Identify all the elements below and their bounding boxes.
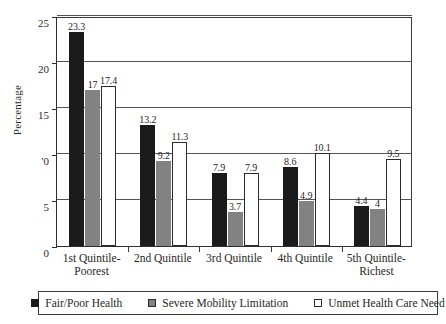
x-tick-mark xyxy=(128,246,129,252)
y-tick-mark xyxy=(52,201,57,202)
legend-label: Unmet Health Care Need xyxy=(328,297,445,309)
bar xyxy=(370,209,385,246)
y-axis-title: Percentage xyxy=(11,65,23,155)
x-tick-mark xyxy=(271,246,272,252)
gridline xyxy=(57,15,412,16)
bar xyxy=(315,153,330,246)
x-tick-mark xyxy=(342,246,343,252)
bar xyxy=(69,32,84,246)
x-axis-category-label: 2nd Quintile xyxy=(134,252,192,265)
bar-value-label: 9.5 xyxy=(387,148,399,159)
legend-item: Unmet Health Care Need xyxy=(314,297,445,309)
bar-value-label: 7.9 xyxy=(213,162,225,173)
bar xyxy=(101,86,116,246)
x-axis-category-label: 5th Quintile- Richest xyxy=(347,252,406,278)
bar-value-label: 4 xyxy=(375,198,380,209)
legend-swatch-icon xyxy=(314,299,322,307)
bar xyxy=(228,212,243,246)
x-tick-mark xyxy=(199,246,200,252)
y-tick-mark xyxy=(52,17,57,18)
legend-swatch-icon xyxy=(148,299,156,307)
legend-swatch-icon xyxy=(31,299,39,307)
bar-value-label: 4.4 xyxy=(355,195,367,206)
bar-value-label: 10.1 xyxy=(314,142,331,153)
x-axis-category-label: 1st Quintile- Poorest xyxy=(63,252,121,278)
bar xyxy=(85,90,100,246)
legend-item: Severe Mobility Limitation xyxy=(148,297,288,309)
bar xyxy=(386,159,401,246)
bar-value-label: 8.6 xyxy=(284,156,296,167)
bar xyxy=(172,142,187,246)
bar xyxy=(212,173,227,246)
bar-value-label: 17 xyxy=(88,79,98,90)
bar-value-label: 11.3 xyxy=(171,131,188,142)
bar xyxy=(156,161,171,246)
y-tick-mark xyxy=(52,247,57,248)
bar-value-label: 9.2 xyxy=(158,150,170,161)
legend-item: Fair/Poor Health xyxy=(31,297,122,309)
bar-value-label: 13.2 xyxy=(139,114,156,125)
bar-value-label: 4.9 xyxy=(300,190,312,201)
x-axis-category-label: 3rd Quintile xyxy=(206,252,262,265)
y-tick-mark xyxy=(52,63,57,64)
bar xyxy=(299,201,314,246)
bar xyxy=(140,125,155,246)
bar xyxy=(244,173,259,246)
y-tick-mark xyxy=(52,155,57,156)
gridline xyxy=(57,61,412,62)
legend-label: Severe Mobility Limitation xyxy=(162,297,288,309)
chart-legend: Fair/Poor HealthSevere Mobility Limitati… xyxy=(38,291,438,315)
legend-label: Fair/Poor Health xyxy=(45,297,122,309)
chart-figure: Percentage 05'0152025 23.31717.413.29.21… xyxy=(0,0,446,324)
y-tick-mark xyxy=(52,109,57,110)
plot-area: 05'0152025 23.31717.413.29.211.37.93.77.… xyxy=(56,17,412,247)
bar-value-label: 3.7 xyxy=(229,201,241,212)
bar xyxy=(283,167,298,246)
x-axis-category-label: 4th Quintile xyxy=(278,252,333,265)
bar-value-label: 7.9 xyxy=(245,162,257,173)
bar-value-label: 17.4 xyxy=(100,75,117,86)
bar-value-label: 23.3 xyxy=(68,21,85,32)
bar xyxy=(354,206,369,246)
